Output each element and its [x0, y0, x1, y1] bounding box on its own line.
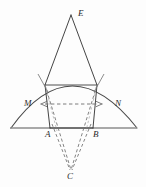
- edge-A-to-C: [52, 124, 70, 170]
- label-point-C: C: [67, 172, 73, 181]
- edge-E-to-right-arc: [71, 15, 97, 85]
- geometry-canvas: [0, 0, 146, 187]
- label-point-B: B: [93, 130, 99, 139]
- label-point-M: M: [24, 99, 32, 108]
- label-point-A: A: [45, 130, 51, 139]
- arrow-toward-N-icon: [96, 101, 102, 106]
- label-point-E: E: [78, 9, 84, 18]
- geometry-figure: E M N A B C: [0, 0, 146, 187]
- tick-left-upper: [38, 74, 48, 92]
- edge-B-to-C: [72, 124, 91, 170]
- edge-E-to-left-arc: [45, 15, 71, 85]
- tick-right-upper: [94, 74, 104, 92]
- label-point-N: N: [115, 99, 121, 108]
